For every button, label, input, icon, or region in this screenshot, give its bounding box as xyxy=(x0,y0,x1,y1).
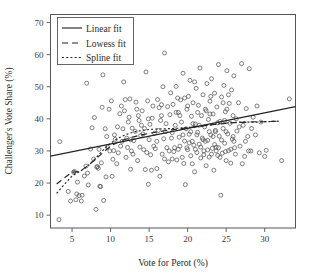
x-tick-label: 15 xyxy=(145,234,155,244)
x-tick-label: 25 xyxy=(222,234,232,244)
legend-label-spline-fit: Spline fit xyxy=(86,53,121,63)
scatter-plot-figure: 10203040506070 51015202530 Vote for Pero… xyxy=(0,0,310,276)
y-axis-title: Challenger's Vote Share (%) xyxy=(4,67,15,174)
y-tick-label: 40 xyxy=(35,114,45,124)
plot-canvas: 10203040506070 51015202530 Vote for Pero… xyxy=(0,0,310,276)
x-tick-label: 5 xyxy=(70,234,75,244)
legend-label-linear-fit: Linear fit xyxy=(86,24,122,34)
x-tick-label: 10 xyxy=(106,234,116,244)
y-tick-label: 20 xyxy=(35,178,45,188)
y-tick-label: 10 xyxy=(35,210,45,220)
y-tick-label: 60 xyxy=(35,50,45,60)
y-tick-label: 30 xyxy=(35,146,45,156)
x-axis-title: Vote for Perot (%) xyxy=(138,258,208,269)
y-tick-label: 70 xyxy=(35,18,45,28)
y-tick-label: 50 xyxy=(35,82,45,92)
legend-label-lowess-fit: Lowess fit xyxy=(86,39,126,49)
x-tick-label: 30 xyxy=(260,234,270,244)
legend: Linear fit Lowess fit Spline fit xyxy=(58,18,134,65)
x-tick-label: 20 xyxy=(183,234,193,244)
